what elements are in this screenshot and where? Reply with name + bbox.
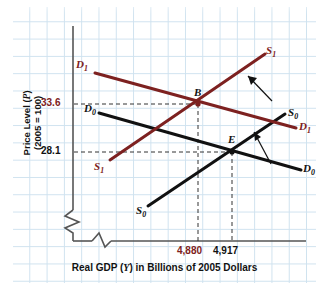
curve-label-s1-left: S1 <box>94 161 104 175</box>
curve-label-d1-right: D1 <box>299 121 311 135</box>
equilibrium-point-b <box>195 101 200 106</box>
curve-label-d0-left: D0 <box>84 103 96 117</box>
y-axis-break-icon <box>65 210 79 241</box>
x-axis-title: Real GDP (Y) in Billions of 2005 Dollars <box>0 262 329 273</box>
economics-supply-demand-figure: D1 D0 S1 S0 S1 S0 D1 D0 B E 33.6 28.1 4,… <box>0 0 329 299</box>
curve-label-s0-right: S0 <box>288 107 298 121</box>
curve-label-s0-left: S0 <box>136 205 146 219</box>
equilibrium-point-e <box>229 149 234 154</box>
x-tick-label-4880: 4,880 <box>177 246 202 256</box>
supply-shift-arrow <box>248 76 272 101</box>
y-axis-title: Price Level (P) (2005 = 100) <box>22 68 44 178</box>
curve-label-s1-right: S1 <box>266 45 276 59</box>
x-axis-break-icon <box>92 233 111 247</box>
x-tick-label-4917: 4,917 <box>213 246 238 256</box>
point-label-b: B <box>194 87 201 98</box>
curve-label-d0-right: D0 <box>303 163 315 177</box>
point-label-e: E <box>228 134 235 145</box>
curve-label-d1-left: D1 <box>76 59 88 73</box>
